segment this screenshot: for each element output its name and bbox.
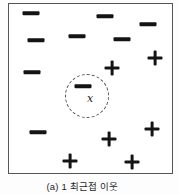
query-point-label: x (87, 93, 93, 104)
knn-figure: x (a) 1 최근접 이웃 (0, 0, 179, 194)
figure-caption: (a) 1 최근접 이웃 (0, 179, 179, 193)
